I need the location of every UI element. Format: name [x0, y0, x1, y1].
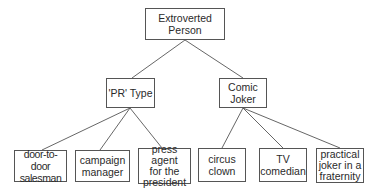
node-pr-type: 'PR' Type: [106, 78, 155, 108]
node-campaign-manager: campaign manager: [75, 150, 130, 182]
node-practical-joker: practical joker in a fraternity: [316, 148, 364, 183]
node-tv-comedian: TV comedian: [259, 148, 307, 182]
node-comic-joker: Comic Joker: [219, 78, 267, 108]
node-circus-clown: circus clown: [198, 148, 246, 182]
node-press-agent: press agent for the president: [138, 148, 191, 184]
node-door-to-door-salesman: door-to-door salesman: [14, 150, 67, 182]
node-extroverted-person: Extroverted Person: [145, 8, 225, 40]
